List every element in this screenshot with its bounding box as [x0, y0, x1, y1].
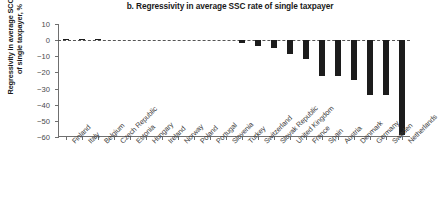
- y-tick-label: −40: [37, 100, 50, 109]
- bar: [303, 40, 309, 59]
- y-tick-label: −60: [37, 133, 50, 142]
- bar: [287, 40, 293, 54]
- y-tick-mark: −20: [55, 72, 59, 73]
- y-tick-mark: −10: [55, 56, 59, 57]
- y-tick-label: −50: [37, 116, 50, 125]
- y-tick-mark: −40: [55, 105, 59, 106]
- plot-area: 100−10−20−30−40−50−60: [58, 24, 410, 137]
- y-tick-label: −20: [37, 68, 50, 77]
- y-tick-label: 0: [46, 36, 50, 45]
- bar: [367, 40, 373, 95]
- bar: [255, 40, 261, 46]
- bar: [351, 40, 357, 80]
- bar: [79, 39, 85, 40]
- x-tick-label-group: FinlandItalyBelgiumCzech RepublicEstonia…: [58, 139, 410, 199]
- y-tick-mark: −60: [55, 137, 59, 138]
- y-tick-mark: −50: [55, 121, 59, 122]
- bar: [399, 40, 405, 134]
- bar: [271, 40, 277, 48]
- bar: [239, 40, 245, 42]
- y-axis-title-text: Regressivity in average SCC rate of sing…: [7, 0, 24, 95]
- y-tick-label: 10: [42, 20, 50, 29]
- bar: [383, 40, 389, 95]
- bar: [95, 39, 101, 40]
- y-tick-label: −10: [37, 52, 50, 61]
- bar: [319, 40, 325, 76]
- y-tick-label: −30: [37, 84, 50, 93]
- chart-title: b. Regressivity in average SSC rate of s…: [60, 1, 400, 11]
- y-tick-mark: −30: [55, 89, 59, 90]
- zero-reference-line: [58, 40, 410, 41]
- y-axis-title: Regressivity in average SCC rate of sing…: [3, 0, 29, 101]
- bar: [63, 39, 69, 40]
- y-tick-mark: 10: [55, 24, 59, 25]
- bar: [335, 40, 341, 76]
